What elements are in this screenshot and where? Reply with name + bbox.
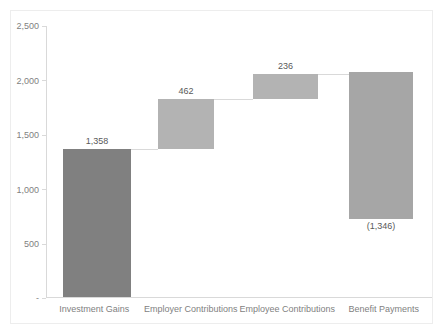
y-tick-label-zero: - <box>36 293 39 303</box>
x-category-label-benefit-payments: Benefit Payments <box>336 303 433 323</box>
y-tick-mark-zero <box>42 298 46 299</box>
bar-label-employee-contributions: 236 <box>253 61 318 72</box>
x-category-label-investment-gains: Investment Gains <box>46 303 143 323</box>
y-axis: 2,500 2,000 1,500 1,000 500 - <box>0 0 46 334</box>
bar-label-investment-gains: 1,358 <box>63 136 131 147</box>
bar-employer-contributions[interactable] <box>158 99 214 149</box>
connector-1 <box>131 149 158 150</box>
bar-label-employer-contributions: 462 <box>158 86 214 97</box>
connector-3 <box>318 74 349 75</box>
bar-benefit-payments[interactable] <box>349 72 413 219</box>
y-tick-label-1000: 1,000 <box>16 185 39 195</box>
connector-2 <box>214 99 253 100</box>
bar-label-benefit-payments: (1,346) <box>349 221 413 232</box>
y-tick-label-500: 500 <box>24 239 39 249</box>
bar-investment-gains[interactable] <box>63 149 131 297</box>
x-axis: Investment Gains Employer Contributions … <box>46 303 432 323</box>
y-tick-label-2500: 2,500 <box>16 21 39 31</box>
y-tick-label-1500: 1,500 <box>16 130 39 140</box>
plot-area: 1,358 462 236 (1,346) <box>46 26 432 298</box>
y-tick-label-2000: 2,000 <box>16 76 39 86</box>
waterfall-chart: 2,500 2,000 1,500 1,000 500 - 1,358 462 … <box>0 0 443 334</box>
x-category-label-employee-contributions: Employee Contributions <box>239 303 336 323</box>
bar-employee-contributions[interactable] <box>253 74 318 99</box>
x-category-label-employer-contributions: Employer Contributions <box>143 303 240 323</box>
